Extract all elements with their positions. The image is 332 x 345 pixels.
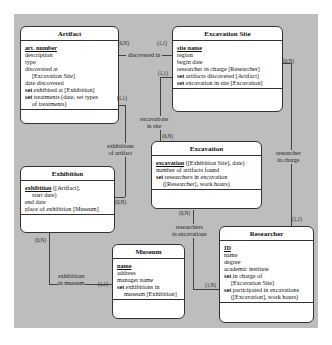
attribute: end date bbox=[25, 198, 110, 205]
attribute-list: name address manager name set exhibition… bbox=[113, 259, 184, 300]
attribute-list: art. number description type discovered … bbox=[21, 41, 118, 110]
entity-title: Excavation Site bbox=[173, 27, 282, 41]
cardinality-label: (0,N) bbox=[35, 237, 46, 243]
attribute: type bbox=[25, 58, 114, 65]
cardinality-label: (0,N) bbox=[162, 133, 173, 139]
attribute: place of exhibition [Museum] bbox=[25, 205, 110, 212]
cardinality-label: (0,N) bbox=[115, 199, 126, 205]
entity-artifact[interactable]: Artifact art. number description type di… bbox=[20, 26, 119, 124]
entity-title: Researcher bbox=[220, 227, 313, 241]
operations-section bbox=[21, 215, 114, 224]
cardinality-label: (1,N) bbox=[205, 282, 216, 288]
entity-researcher[interactable]: Researcher ID name degree academic insti… bbox=[219, 226, 314, 323]
attribute: date discovered bbox=[25, 79, 114, 86]
primary-key: art. number bbox=[25, 44, 57, 51]
operations-section bbox=[113, 300, 184, 309]
attribute: ([Excavation], work hours) bbox=[224, 293, 309, 300]
operations-section bbox=[220, 303, 313, 312]
connector-exhibitions-in-museum-a bbox=[49, 232, 50, 284]
attribute-list: exhibition ([Artifact], start date) end … bbox=[21, 181, 114, 215]
attribute: [Excavation Site] bbox=[25, 72, 114, 79]
connector-researcher-in-charge-b bbox=[291, 63, 292, 228]
cardinality-label: (0,N) bbox=[118, 40, 129, 46]
cardinality-label: (1,1) bbox=[157, 40, 167, 46]
attribute: start date) bbox=[25, 191, 110, 198]
entity-title: Artifact bbox=[21, 27, 118, 41]
entity-title: Excavation bbox=[152, 142, 261, 156]
operations-section bbox=[173, 89, 282, 98]
attribute: set exhibitions in bbox=[117, 283, 180, 290]
attribute: set exhibited at [Exhibition] bbox=[25, 86, 114, 93]
attribute: excavation ([Exhibition Site], date) bbox=[156, 159, 257, 166]
relationship-label-researchers-in-excavations: researchers in excavations bbox=[172, 224, 207, 238]
entity-museum[interactable]: Museum name address manager name set exh… bbox=[112, 244, 185, 319]
relationship-label-excavations-in-site: excavations in site bbox=[140, 116, 168, 130]
relationship-label-researcher-in-charge: researcher in charge bbox=[276, 150, 301, 164]
primary-key: excavation bbox=[156, 159, 184, 166]
attribute: manager name bbox=[117, 276, 180, 283]
connector-researchers-in-excavations-a bbox=[193, 210, 194, 289]
attribute: museum [Exhibition] bbox=[117, 290, 180, 297]
operations-section bbox=[152, 190, 261, 199]
cardinality-label: (1,1) bbox=[292, 216, 302, 222]
attribute: degree bbox=[224, 258, 309, 265]
attribute: address bbox=[117, 269, 180, 276]
attribute: [Excavation Site] bbox=[224, 279, 309, 286]
attribute: number of artifacts found bbox=[156, 166, 257, 173]
attribute: ([Researcher], work hours) bbox=[156, 180, 257, 187]
relationship-label-exhibitions-of-artifact: exhibitions of artifact bbox=[107, 143, 134, 157]
attribute-list: excavation ([Exhibition Site], date) num… bbox=[152, 156, 261, 190]
connector-researchers-in-excavations-b bbox=[193, 289, 219, 290]
primary-key: name bbox=[117, 262, 131, 269]
attribute: set excavation in site [Excavation] bbox=[177, 79, 278, 86]
attribute: exhibition ([Artifact], bbox=[25, 184, 110, 191]
connector-excavations-in-site-a bbox=[160, 77, 172, 78]
primary-key: exhibition bbox=[25, 184, 51, 191]
cardinality-label: (0,N) bbox=[283, 58, 294, 64]
attribute: set in charge of bbox=[224, 272, 309, 279]
attribute: set researchers in excavation bbox=[156, 173, 257, 180]
attribute: discovered at bbox=[25, 65, 114, 72]
primary-key: ID bbox=[224, 244, 231, 251]
entity-excavation[interactable]: Excavation excavation ([Exhibition Site]… bbox=[151, 141, 262, 209]
cardinality-label: (1,1) bbox=[98, 281, 108, 287]
primary-key: site name bbox=[177, 44, 202, 51]
entity-title: Museum bbox=[113, 245, 184, 259]
cardinality-label: (0,N) bbox=[179, 210, 190, 216]
attribute: researcher in charge [Researcher] bbox=[177, 65, 278, 72]
attribute-list: ID name degree academic institute set in… bbox=[220, 241, 313, 303]
attribute: set treatments (date, set types bbox=[25, 93, 114, 100]
entity-excavation-site[interactable]: Excavation Site site name region begin d… bbox=[172, 26, 283, 112]
attribute: name bbox=[224, 251, 309, 258]
relationship-label-exhibitions-in-museum: exhibitions in museum bbox=[58, 273, 85, 287]
attribute: begin date bbox=[177, 58, 278, 65]
attribute: description bbox=[25, 51, 114, 58]
attribute: set participated in excavations bbox=[224, 286, 309, 293]
attribute: set artifacts discovered [Artifact] bbox=[177, 72, 278, 79]
cardinality-label: (1,1) bbox=[158, 70, 168, 76]
attribute: region bbox=[177, 51, 278, 58]
relationship-label-discovered-in: discovered in bbox=[126, 52, 162, 59]
attribute: of treatments) bbox=[25, 100, 114, 107]
attribute-list: site name region begin date researcher i… bbox=[173, 41, 282, 89]
entity-exhibition[interactable]: Exhibition exhibition ([Artifact], start… bbox=[20, 166, 115, 233]
cardinality-label: (1,1) bbox=[117, 95, 127, 101]
entity-title: Exhibition bbox=[21, 167, 114, 181]
attribute: academic institute bbox=[224, 265, 309, 272]
operations-section bbox=[21, 110, 118, 119]
